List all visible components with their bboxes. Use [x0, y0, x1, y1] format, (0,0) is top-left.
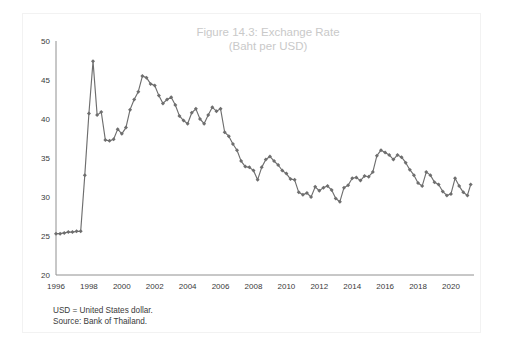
- data-point-marker: [70, 230, 74, 234]
- data-point-marker: [79, 229, 83, 233]
- data-point-marker: [153, 83, 157, 87]
- data-point-marker: [112, 137, 116, 141]
- footnotes-block: USD = United States dollar. Source: Bank…: [53, 305, 353, 327]
- chart-title-line1: Figure 14.3: Exchange Rate: [196, 26, 339, 38]
- y-tick-label: 20: [41, 271, 50, 280]
- data-point-marker: [75, 229, 79, 233]
- data-point-marker: [260, 165, 264, 169]
- data-point-marker: [136, 90, 140, 94]
- x-axis: 1996199820002002200420062008201020122014…: [47, 275, 474, 291]
- data-point-marker: [449, 192, 453, 196]
- x-tick-label: 2004: [179, 282, 197, 291]
- data-point-marker: [453, 176, 457, 180]
- data-point-marker: [132, 98, 136, 102]
- data-point-marker: [91, 59, 95, 63]
- y-tick-label: 45: [41, 76, 50, 85]
- data-point-marker: [66, 230, 70, 234]
- x-tick-label: 1998: [80, 282, 98, 291]
- y-axis: 20253035404550: [41, 37, 56, 280]
- x-tick-label: 2010: [277, 282, 295, 291]
- data-point-marker: [62, 231, 66, 235]
- data-point-marker: [256, 178, 260, 182]
- figure-container: Figure 14.3: Exchange Rate (Baht per USD…: [22, 13, 481, 333]
- footnote-source: Source: Bank of Thailand.: [53, 316, 353, 327]
- x-tick-label: 2012: [310, 282, 328, 291]
- chart-title-line2: (Baht per USD): [229, 40, 308, 52]
- x-tick-label: 2016: [376, 282, 394, 291]
- x-tick-label: 2014: [343, 282, 361, 291]
- data-point-marker: [206, 113, 210, 117]
- data-point-marker: [157, 94, 161, 98]
- x-tick-label: 2002: [146, 282, 164, 291]
- y-tick-label: 30: [41, 193, 50, 202]
- x-tick-label: 2006: [212, 282, 230, 291]
- data-point-marker: [87, 112, 91, 116]
- series-markers: [54, 59, 473, 235]
- x-tick-label: 2020: [442, 282, 460, 291]
- data-point-marker: [293, 178, 297, 182]
- data-point-marker: [83, 173, 87, 177]
- data-point-marker: [58, 232, 62, 236]
- footnote-usd-definition: USD = United States dollar.: [53, 305, 353, 316]
- data-point-marker: [54, 232, 58, 236]
- y-tick-label: 40: [41, 115, 50, 124]
- x-tick-label: 2000: [113, 282, 131, 291]
- data-point-marker: [140, 74, 144, 78]
- y-tick-label: 50: [41, 37, 50, 46]
- x-tick-label: 2018: [409, 282, 427, 291]
- x-tick-label: 1996: [47, 282, 65, 291]
- data-point-marker: [173, 103, 177, 107]
- data-point-marker: [103, 138, 107, 142]
- data-point-marker: [128, 108, 132, 112]
- data-point-marker: [107, 139, 111, 143]
- exchange-rate-line-chart: Figure 14.3: Exchange Rate (Baht per USD…: [23, 14, 482, 334]
- chart-plot-area: Figure 14.3: Exchange Rate (Baht per USD…: [23, 14, 482, 334]
- x-tick-label: 2008: [245, 282, 263, 291]
- y-tick-label: 25: [41, 232, 50, 241]
- data-point-marker: [469, 183, 473, 187]
- y-tick-label: 35: [41, 154, 50, 163]
- series-line-baht-per-usd: [56, 61, 471, 233]
